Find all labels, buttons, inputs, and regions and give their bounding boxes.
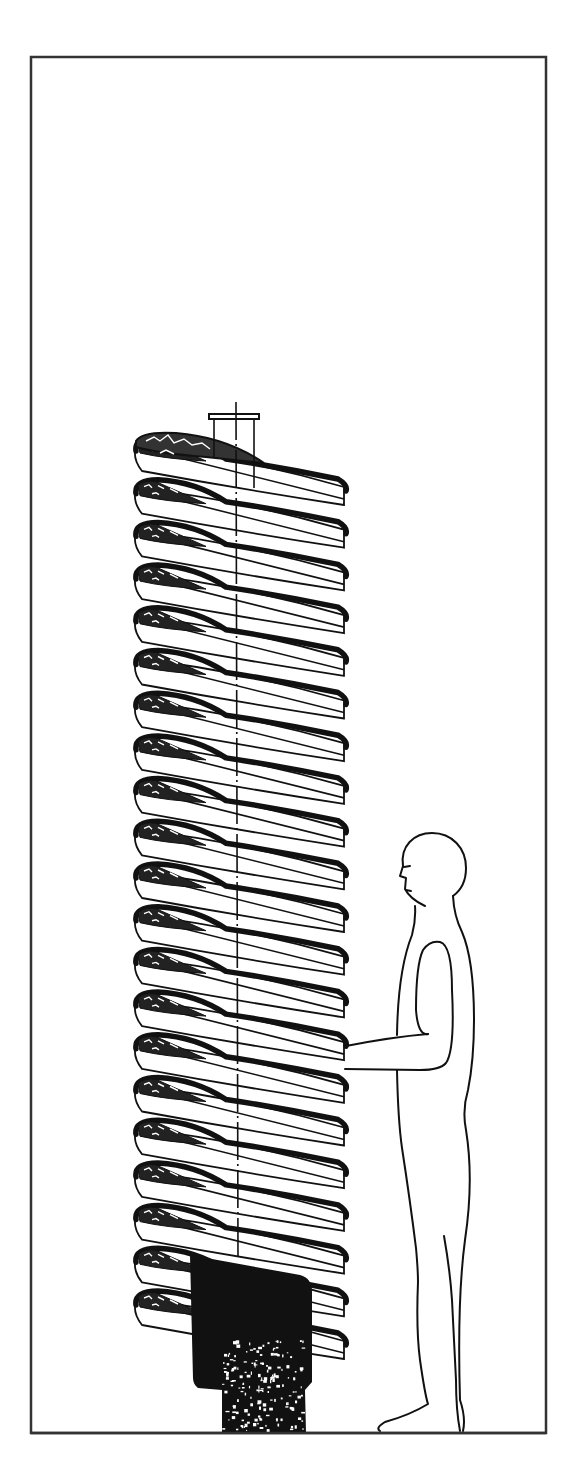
texture-speck	[298, 1396, 301, 1399]
texture-speck	[282, 1354, 283, 1357]
texture-speck	[301, 1412, 305, 1414]
texture-speck	[253, 1348, 256, 1350]
texture-speck	[287, 1352, 289, 1353]
texture-speck	[249, 1386, 250, 1389]
texture-speck	[261, 1388, 264, 1389]
texture-speck	[289, 1395, 292, 1396]
texture-speck	[295, 1371, 297, 1373]
texture-speck	[245, 1393, 246, 1396]
texture-speck	[238, 1388, 240, 1389]
texture-speck	[226, 1411, 230, 1412]
column-base	[190, 1255, 312, 1433]
texture-speck	[293, 1377, 295, 1380]
texture-speck	[274, 1399, 276, 1402]
texture-speck	[252, 1363, 254, 1364]
texture-speck	[236, 1345, 240, 1348]
texture-speck	[290, 1429, 293, 1431]
texture-speck	[291, 1426, 293, 1428]
texture-speck	[280, 1341, 281, 1343]
person-forearm-top	[346, 1034, 428, 1046]
texture-speck	[269, 1408, 273, 1411]
texture-speck	[277, 1367, 280, 1369]
texture-speck	[266, 1415, 270, 1416]
texture-speck	[257, 1423, 259, 1425]
texture-speck	[224, 1391, 227, 1394]
texture-speck	[242, 1420, 244, 1422]
texture-speck	[272, 1375, 273, 1376]
spiral-column-illustration	[0, 0, 573, 1471]
texture-speck	[268, 1342, 270, 1344]
texture-speck	[282, 1384, 284, 1387]
texture-speck	[286, 1365, 289, 1368]
texture-speck	[302, 1341, 303, 1344]
texture-speck	[270, 1380, 271, 1384]
texture-speck	[242, 1384, 243, 1385]
person-front-leg	[378, 1070, 428, 1431]
texture-speck	[245, 1372, 247, 1373]
texture-speck	[249, 1343, 250, 1346]
texture-speck	[234, 1355, 236, 1357]
texture-speck	[285, 1406, 288, 1407]
texture-speck	[255, 1366, 256, 1368]
texture-speck	[298, 1417, 301, 1420]
texture-speck	[258, 1374, 261, 1377]
texture-speck	[270, 1400, 273, 1401]
texture-speck	[281, 1369, 282, 1371]
person-eye	[404, 866, 410, 867]
texture-speck	[236, 1412, 239, 1415]
texture-speck	[222, 1384, 224, 1385]
texture-speck	[224, 1368, 227, 1369]
texture-speck	[247, 1375, 251, 1378]
texture-speck	[227, 1363, 230, 1365]
texture-speck	[240, 1375, 243, 1378]
texture-speck	[231, 1385, 233, 1387]
person-back-leg	[444, 1236, 460, 1431]
texture-speck	[276, 1341, 277, 1343]
texture-speck	[258, 1416, 260, 1418]
texture-speck	[301, 1386, 302, 1388]
texture-speck	[256, 1350, 259, 1353]
texture-speck	[300, 1340, 302, 1342]
pipe-cap	[209, 414, 259, 419]
texture-speck	[287, 1402, 288, 1405]
texture-speck	[265, 1425, 266, 1427]
texture-speck	[259, 1407, 261, 1410]
texture-speck	[259, 1390, 263, 1391]
texture-speck	[258, 1386, 259, 1389]
texture-speck	[295, 1425, 297, 1428]
texture-speck	[224, 1371, 227, 1373]
texture-speck	[276, 1347, 279, 1349]
texture-speck	[291, 1407, 294, 1410]
texture-speck	[274, 1353, 278, 1355]
texture-speck	[253, 1423, 256, 1426]
texture-speck	[251, 1372, 252, 1375]
person-front	[397, 906, 415, 1035]
texture-speck	[301, 1395, 303, 1397]
texture-speck	[223, 1362, 224, 1364]
texture-speck	[302, 1348, 306, 1349]
texture-speck	[222, 1428, 225, 1430]
texture-speck	[248, 1414, 250, 1416]
texture-speck	[236, 1429, 238, 1431]
texture-speck	[232, 1416, 235, 1419]
texture-speck	[258, 1347, 262, 1349]
texture-speck	[295, 1401, 297, 1404]
texture-speck	[228, 1355, 229, 1358]
texture-speck	[228, 1419, 229, 1420]
texture-speck	[255, 1360, 257, 1361]
texture-speck	[263, 1408, 266, 1411]
texture-speck	[261, 1380, 263, 1381]
texture-speck	[267, 1370, 269, 1373]
texture-speck	[242, 1387, 245, 1389]
texture-speck	[263, 1403, 266, 1406]
texture-speck	[263, 1380, 267, 1383]
texture-speck	[241, 1425, 243, 1427]
texture-speck	[293, 1391, 295, 1392]
texture-speck	[266, 1365, 268, 1367]
texture-speck	[237, 1367, 238, 1370]
texture-speck	[271, 1353, 274, 1356]
spiral-column	[135, 433, 346, 1359]
texture-speck	[255, 1419, 258, 1422]
texture-speck	[241, 1391, 244, 1392]
texture-speck	[273, 1349, 274, 1351]
